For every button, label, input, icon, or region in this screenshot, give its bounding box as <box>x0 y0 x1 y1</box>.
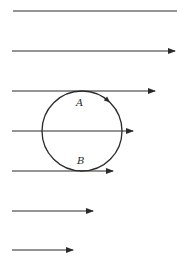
label-point-b: B <box>76 155 84 166</box>
flow-diagram: A B <box>0 0 177 257</box>
label-point-a: A <box>75 97 83 108</box>
flow-lines <box>12 11 177 250</box>
